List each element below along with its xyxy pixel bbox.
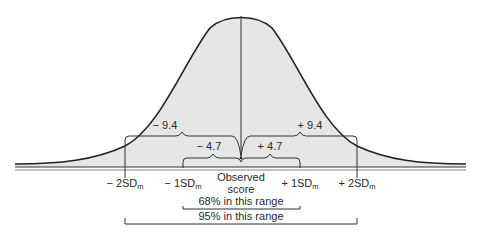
observed-label-line1: Observed: [217, 171, 265, 183]
normal-curve-diagram: − 9.4 + 9.4 − 4.7 + 4.7 − 2SDm − 1SDm + …: [0, 0, 479, 236]
label-outer-left: − 9.4: [153, 119, 178, 131]
observed-label-line2: score: [228, 183, 255, 195]
tick-plus-1sd: + 1SDm: [281, 177, 318, 191]
label-inner-left: − 4.7: [197, 140, 222, 152]
tick-plus-2sd: + 2SDm: [338, 177, 375, 191]
range-95-label: 95% in this range: [199, 210, 284, 222]
label-inner-right: + 4.7: [258, 140, 283, 152]
observed-score-point: [240, 157, 243, 160]
range-68-label: 68% in this range: [199, 195, 284, 207]
tick-minus-2sd: − 2SDm: [106, 177, 143, 191]
tick-minus-1sd: − 1SDm: [164, 177, 201, 191]
label-outer-right: + 9.4: [298, 119, 323, 131]
